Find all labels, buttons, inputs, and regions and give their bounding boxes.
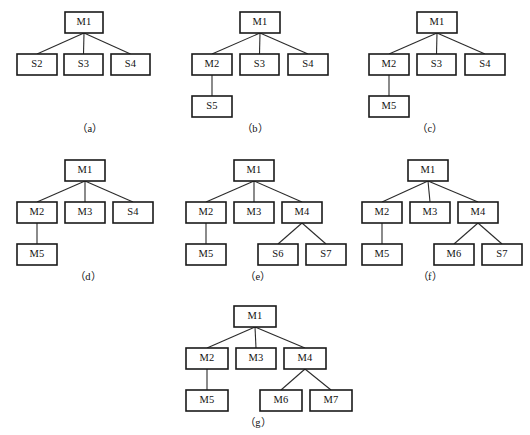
tree-node-b-n4[interactable]: S4 xyxy=(288,54,328,75)
tree-node-b-n5[interactable]: S5 xyxy=(192,96,232,117)
node-label-e-n5: M5 xyxy=(199,248,214,259)
tree-node-e-n6[interactable]: S6 xyxy=(258,244,298,265)
tree-node-d-n4[interactable]: S4 xyxy=(113,202,153,223)
tree-node-a-n1[interactable]: M1 xyxy=(65,12,103,33)
node-label-f-n7: S7 xyxy=(496,248,508,259)
tree-diagram-c: M1M2S3S4M5 xyxy=(360,0,511,123)
panel-caption-e: （e） xyxy=(228,268,288,283)
tree-diagram-f: M1M2M3M4M5M6S7 xyxy=(356,148,528,271)
tree-diagram-a: M1S2S3S4 xyxy=(0,0,156,81)
node-label-f-n4: M4 xyxy=(471,206,487,217)
node-label-b-n2: M2 xyxy=(205,58,220,69)
node-label-f-n2: M2 xyxy=(375,206,390,217)
node-label-f-n3: M3 xyxy=(423,206,438,217)
tree-edge-b-n1-n2 xyxy=(212,33,260,54)
figure-root: M1S2S3S4（a）M1M2S3S4S5（b）M1M2S3S4M5（c）M1M… xyxy=(0,0,530,435)
tree-node-b-n3[interactable]: S3 xyxy=(240,54,279,75)
tree-node-f-n4[interactable]: M4 xyxy=(458,202,498,223)
node-label-b-n4: S4 xyxy=(302,58,314,69)
tree-edge-e-n4-n7 xyxy=(302,223,326,244)
tree-node-e-n5[interactable]: M5 xyxy=(186,244,226,265)
tree-diagram-b: M1M2S3S4S5 xyxy=(180,0,334,123)
node-label-a-n1: M1 xyxy=(77,16,92,27)
tree-node-g-n1[interactable]: M1 xyxy=(234,306,276,327)
node-label-d-n3: M3 xyxy=(78,206,93,217)
tree-edge-c-n1-n4 xyxy=(437,33,485,54)
panel-caption-c: （c） xyxy=(400,120,460,135)
tree-node-e-n4[interactable]: M4 xyxy=(282,202,322,223)
tree-node-f-n1[interactable]: M1 xyxy=(408,160,448,181)
node-label-b-n3: S3 xyxy=(254,58,266,69)
node-label-c-n4: S4 xyxy=(479,58,491,69)
node-label-a-n2: S2 xyxy=(31,58,43,69)
tree-node-e-n3[interactable]: M3 xyxy=(234,202,274,223)
node-label-c-n2: M2 xyxy=(382,58,397,69)
tree-node-d-n5[interactable]: M5 xyxy=(17,244,57,265)
tree-node-f-n5[interactable]: M5 xyxy=(362,244,402,265)
tree-canvas-b: M1M2S3S4S5 xyxy=(180,0,334,123)
tree-edge-e-n1-n2 xyxy=(206,181,254,202)
node-label-f-n6: M6 xyxy=(447,248,462,259)
node-label-g-n3: M3 xyxy=(249,352,264,363)
tree-node-a-n2[interactable]: S2 xyxy=(17,54,57,75)
tree-node-g-n3[interactable]: M3 xyxy=(236,348,276,369)
node-label-f-n5: M5 xyxy=(375,248,390,259)
tree-node-b-n1[interactable]: M1 xyxy=(240,12,280,33)
tree-node-c-n2[interactable]: M2 xyxy=(369,54,409,75)
tree-node-d-n2[interactable]: M2 xyxy=(17,202,57,223)
node-label-g-n6: M6 xyxy=(274,394,289,405)
tree-diagram-e: M1M2M3M4M5S6S7 xyxy=(178,148,352,271)
tree-edge-d-n1-n4 xyxy=(85,181,133,202)
tree-node-c-n4[interactable]: S4 xyxy=(465,54,505,75)
panel-caption-g: （g） xyxy=(228,414,288,429)
tree-node-d-n1[interactable]: M1 xyxy=(65,160,105,181)
node-label-f-n1: M1 xyxy=(421,164,436,175)
tree-node-b-n2[interactable]: M2 xyxy=(192,54,232,75)
tree-diagram-g: M1M2M3M4M5M6M7 xyxy=(178,294,358,417)
panel-caption-d: （d） xyxy=(58,268,118,283)
tree-node-g-n7[interactable]: M7 xyxy=(310,390,352,411)
tree-edge-d-n1-n2 xyxy=(37,181,85,202)
tree-node-c-n3[interactable]: S3 xyxy=(417,54,456,75)
tree-edge-b-n1-n4 xyxy=(260,33,308,54)
tree-edge-c-n1-n2 xyxy=(389,33,437,54)
tree-node-f-n6[interactable]: M6 xyxy=(434,244,474,265)
tree-edge-g-n4-n7 xyxy=(305,369,331,390)
tree-node-e-n7[interactable]: S7 xyxy=(306,244,346,265)
tree-edge-e-n4-n6 xyxy=(278,223,302,244)
tree-node-g-n2[interactable]: M2 xyxy=(186,348,228,369)
tree-canvas-e: M1M2M3M4M5S6S7 xyxy=(178,148,352,271)
tree-node-f-n2[interactable]: M2 xyxy=(362,202,402,223)
tree-node-e-n1[interactable]: M1 xyxy=(234,160,274,181)
tree-edge-f-n4-n7 xyxy=(478,223,502,244)
node-label-g-n2: M2 xyxy=(200,352,215,363)
tree-node-a-n3[interactable]: S3 xyxy=(64,54,103,75)
node-label-d-n1: M1 xyxy=(78,164,93,175)
tree-edge-f-n1-n3 xyxy=(428,181,430,202)
tree-node-g-n5[interactable]: M5 xyxy=(186,390,228,411)
node-label-g-n1: M1 xyxy=(248,310,263,321)
node-label-g-n5: M5 xyxy=(200,394,215,405)
tree-canvas-c: M1M2S3S4M5 xyxy=(360,0,511,123)
tree-edge-g-n4-n6 xyxy=(281,369,305,390)
tree-canvas-g: M1M2M3M4M5M6M7 xyxy=(178,294,358,417)
tree-edge-a-n1-n3 xyxy=(84,33,85,54)
tree-edge-a-n1-n4 xyxy=(84,33,131,54)
tree-node-e-n2[interactable]: M2 xyxy=(186,202,226,223)
panel-caption-b: （b） xyxy=(225,120,285,135)
node-label-d-n2: M2 xyxy=(30,206,45,217)
tree-node-f-n3[interactable]: M3 xyxy=(410,202,450,223)
tree-node-g-n4[interactable]: M4 xyxy=(284,348,326,369)
tree-node-f-n7[interactable]: S7 xyxy=(482,244,522,265)
node-label-e-n2: M2 xyxy=(199,206,214,217)
tree-node-a-n4[interactable]: S4 xyxy=(111,54,150,75)
tree-node-d-n3[interactable]: M3 xyxy=(65,202,105,223)
node-label-e-n4: M4 xyxy=(295,206,311,217)
node-label-g-n4: M4 xyxy=(298,352,314,363)
tree-node-g-n6[interactable]: M6 xyxy=(260,390,302,411)
tree-edge-g-n1-n3 xyxy=(255,327,256,348)
tree-edge-f-n4-n6 xyxy=(454,223,478,244)
tree-node-c-n1[interactable]: M1 xyxy=(417,12,457,33)
tree-edge-c-n1-n3 xyxy=(437,33,438,54)
tree-node-c-n5[interactable]: M5 xyxy=(369,96,409,117)
